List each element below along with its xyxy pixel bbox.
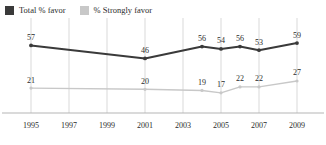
data-point-label: 57	[27, 33, 35, 42]
data-point-label: 54	[217, 36, 225, 45]
data-point	[257, 48, 261, 52]
data-point	[143, 57, 147, 61]
legend-entry-total-favor: Total % favor	[5, 6, 66, 15]
data-point	[29, 87, 32, 90]
chart-plot-area: 5746565456535921201917222227	[0, 18, 326, 118]
legend-entry-strongly-favor: % Strongly favor	[80, 6, 153, 15]
x-axis-tick-labels: 19951997199920012003200520072009	[0, 122, 326, 136]
data-point	[295, 79, 298, 82]
data-point-label: 46	[141, 46, 149, 55]
data-point	[238, 45, 242, 49]
data-point	[295, 41, 299, 45]
data-point	[200, 89, 203, 92]
data-point-label: 20	[141, 77, 149, 86]
chart-legend: Total % favor % Strongly favor	[5, 3, 152, 17]
chart-svg: 5746565456535921201917222227	[0, 18, 326, 118]
x-tick-2001: 2001	[137, 122, 153, 130]
x-tick-1995: 1995	[23, 122, 39, 130]
data-point-label: 56	[236, 34, 244, 43]
legend-label-total-favor: Total % favor	[19, 6, 66, 15]
x-tick-2005: 2005	[213, 122, 229, 130]
data-point-label: 17	[217, 80, 225, 89]
x-tick-2007: 2007	[251, 122, 267, 130]
data-point	[219, 91, 222, 94]
data-point-label: 56	[198, 34, 206, 43]
x-tick-1997: 1997	[61, 122, 77, 130]
data-point	[29, 44, 33, 48]
data-point-label: 53	[255, 38, 263, 47]
data-point	[143, 88, 146, 91]
data-point-label: 19	[198, 78, 206, 87]
point-labels-group: 5746565456535921201917222227	[27, 31, 301, 90]
data-point	[257, 85, 260, 88]
data-point-label: 27	[293, 68, 301, 77]
data-point-label: 22	[236, 74, 244, 83]
legend-label-strongly-favor: % Strongly favor	[94, 6, 153, 15]
chart-container: Total % favor % Strongly favor 574656545…	[0, 0, 326, 145]
legend-swatch-strongly-favor-icon	[80, 6, 89, 15]
x-tick-2003: 2003	[175, 122, 191, 130]
data-point	[219, 47, 223, 51]
x-tick-2009: 2009	[289, 122, 305, 130]
gridlines-group	[31, 18, 297, 113]
data-point-label: 21	[27, 76, 35, 85]
series-group	[29, 41, 299, 94]
data-point-label: 22	[255, 74, 263, 83]
data-point	[200, 45, 204, 49]
data-point	[238, 85, 241, 88]
data-point-label: 59	[293, 31, 301, 40]
legend-swatch-total-favor-icon	[5, 6, 14, 15]
x-tick-1999: 1999	[99, 122, 115, 130]
